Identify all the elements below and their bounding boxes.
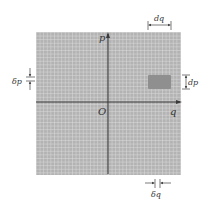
volume-element-dq-dp xyxy=(148,75,171,89)
p-axis-label: p xyxy=(99,32,106,43)
origin-label: O xyxy=(98,106,106,117)
phase-space-diagram: p q O dq dp δp δq xyxy=(0,0,213,214)
delta-p-label: δp xyxy=(12,77,22,86)
delta-q-label: δq xyxy=(151,190,161,199)
q-axis-label: q xyxy=(170,106,176,117)
dq-label: dq xyxy=(154,14,164,23)
delta-q-dimension xyxy=(145,179,171,188)
delta-p-dimension xyxy=(26,68,35,90)
dp-label: dp xyxy=(188,78,198,87)
